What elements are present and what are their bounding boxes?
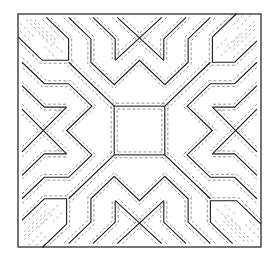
pattern-drawing [0, 0, 278, 260]
pattern-bands [18, 13, 261, 247]
pattern-figure: Symmetric geometric line pattern [0, 0, 278, 260]
outer-frame [18, 14, 261, 247]
center-square [114, 106, 165, 155]
